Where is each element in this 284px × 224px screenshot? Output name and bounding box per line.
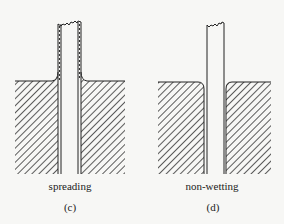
panel-c-spreading	[15, 21, 125, 174]
liquid-block-right-d	[226, 82, 271, 174]
panel-d-non-wetting	[158, 22, 271, 174]
liquid-block-left-c	[15, 72, 58, 174]
liquid-surface-left-c	[15, 72, 58, 81]
liquid-block-right-c	[81, 72, 125, 174]
liquid-block-left-d	[158, 82, 204, 174]
tube-break-top-d	[207, 22, 224, 27]
wetting-diagram	[0, 0, 284, 224]
panel-label-d: (d)	[207, 201, 220, 213]
panel-label-c: (c)	[64, 201, 76, 213]
liquid-surface-right-c	[81, 72, 125, 81]
caption-non-wetting: non-wetting	[185, 180, 238, 192]
caption-spreading: spreading	[49, 180, 92, 192]
